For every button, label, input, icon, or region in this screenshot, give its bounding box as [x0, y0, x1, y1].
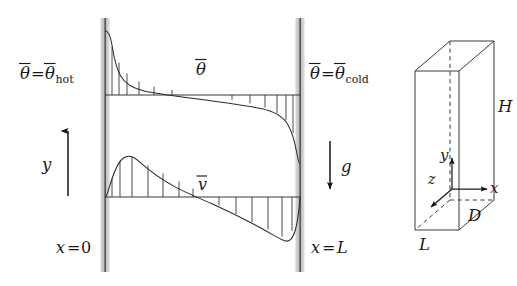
theta-hot-symbol: θ [20, 64, 30, 83]
mean-vertical-velocity-profile [105, 156, 300, 241]
x-L-equals: = [322, 238, 335, 257]
cavity-box-front-face-edges [415, 71, 459, 230]
y-axis-label: y [41, 155, 52, 174]
theta-cold-symbol: θ [310, 64, 320, 83]
cavity-box-top-right-connector [459, 41, 494, 71]
velocity-hatching-upflow [112, 157, 193, 197]
right-panel-cavity-geometry: x y z H D L [415, 41, 513, 254]
velocity-profile-symbol: v [198, 175, 207, 194]
figure-canvas: θ = θ hot θ θ = θ cold [0, 0, 517, 286]
theta-hot-equals: = [31, 64, 45, 83]
z-axis-arrow [431, 189, 452, 207]
cavity-box-silhouette [415, 41, 494, 230]
gravity-label: g [341, 157, 352, 176]
hot-wall-boundary-condition-label: θ = θ hot [19, 64, 74, 87]
temperature-curve [105, 31, 300, 164]
velocity-hatching-downflow [219, 197, 292, 237]
left-panel-cavity-cross-section: θ = θ hot θ θ = θ cold [19, 18, 369, 272]
x-zero-value: 0 [81, 238, 91, 257]
cavity-box-hidden-bottom-edge [415, 200, 450, 230]
theta-cold-subscript: cold [346, 73, 369, 86]
height-label: H [497, 97, 513, 116]
y-axis-label-3d: y [439, 146, 449, 164]
x-L-variable: x [311, 238, 320, 257]
width-label: L [418, 235, 430, 254]
temperature-hatching-hot [112, 47, 172, 96]
temperature-hatching-cold [232, 95, 293, 133]
temperature-curve-label: θ [195, 60, 207, 80]
theta-profile-symbol: θ [196, 60, 206, 79]
velocity-curve-label: v [197, 175, 208, 194]
heated-cavity-figure: θ = θ hot θ θ = θ cold [0, 0, 517, 286]
x-zero-equals: = [67, 238, 80, 257]
z-axis-label-3d: z [427, 171, 436, 187]
cold-wall-boundary-condition-label: θ = θ cold [309, 64, 369, 87]
velocity-curve [105, 156, 300, 241]
theta-hot-symbol-2: θ [45, 64, 55, 83]
x-L-label: x = L [311, 238, 348, 257]
x-axis-label-3d: x [490, 179, 499, 197]
depth-label: D [467, 206, 481, 225]
theta-cold-symbol-2: θ [335, 64, 345, 83]
x-zero-label: x = 0 [56, 238, 91, 257]
theta-cold-equals: = [321, 64, 335, 83]
hot-wall [100, 18, 111, 272]
mean-temperature-profile [105, 31, 300, 164]
coordinate-axes-triad: x y z [427, 146, 499, 207]
x-zero-variable: x [56, 238, 65, 257]
x-L-value: L [336, 238, 348, 257]
cold-wall [295, 18, 306, 272]
theta-hot-subscript: hot [56, 73, 75, 86]
